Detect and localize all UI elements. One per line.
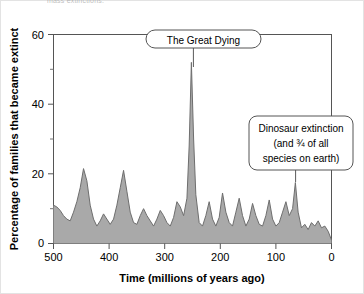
great-dying-callout-label: The Great Dying xyxy=(167,35,240,46)
extinction-area-chart: 0 20 40 60 Percentage of families that b… xyxy=(1,1,364,294)
x-tick-label-200: 200 xyxy=(211,251,229,263)
x-tick-label-400: 400 xyxy=(100,251,118,263)
y-axis-title: Percentage of families that became extin… xyxy=(8,27,20,250)
x-axis: 500 400 300 200 100 0 xyxy=(44,244,334,264)
x-tick-label-100: 100 xyxy=(267,251,285,263)
figure-frame: mass extinctions. 0 20 40 60 Percentage … xyxy=(0,0,364,294)
dinosaur-callout-line-1: Dinosaur extinction xyxy=(258,123,343,134)
dinosaur-callout-line-2: (and ¾ of all xyxy=(273,138,328,149)
dinosaur-callout-line-3: species on earth) xyxy=(263,153,340,164)
x-axis-title: Time (millions of years ago) xyxy=(119,272,265,284)
y-axis: 0 20 40 60 xyxy=(32,29,54,250)
y-tick-label-40: 40 xyxy=(32,98,44,110)
x-tick-label-0: 0 xyxy=(328,251,334,263)
y-tick-label-60: 60 xyxy=(32,29,44,41)
x-tick-label-500: 500 xyxy=(44,251,62,263)
x-tick-label-300: 300 xyxy=(156,251,174,263)
y-tick-label-0: 0 xyxy=(38,237,44,249)
y-tick-label-20: 20 xyxy=(32,168,44,180)
